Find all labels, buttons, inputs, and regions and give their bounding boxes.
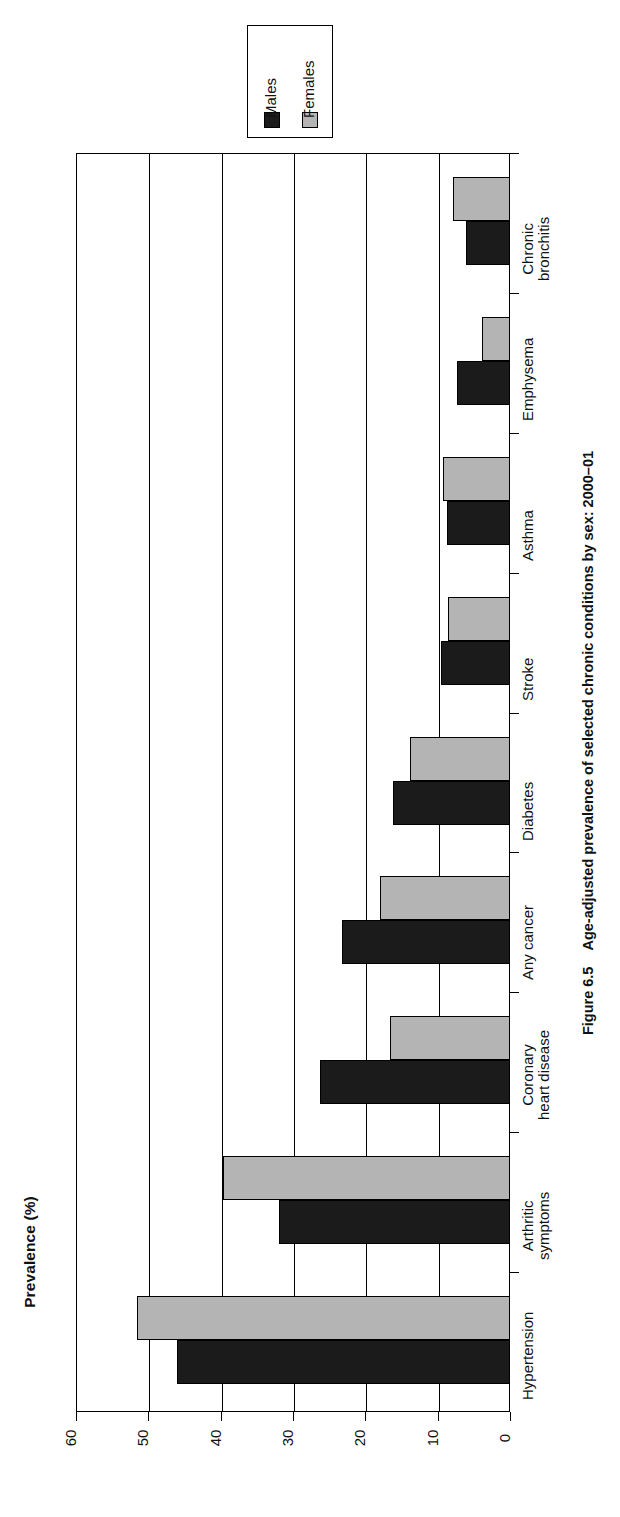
category-tick-6 bbox=[510, 433, 519, 434]
bar-females-chronic-bronchitis bbox=[453, 177, 510, 221]
category-tick-7 bbox=[510, 293, 519, 294]
category-tick-4 bbox=[510, 713, 519, 714]
chart-legend: MalesFemales bbox=[247, 25, 333, 138]
category-label-line1: Any cancer bbox=[519, 905, 536, 980]
bar-females-diabetes bbox=[410, 737, 510, 781]
bar-males-diabetes bbox=[393, 781, 510, 825]
category-label-arthritic-symptoms: Arthriticsymptoms bbox=[520, 1192, 552, 1260]
category-label-line1: Chronic bbox=[519, 223, 536, 275]
category-label-stroke: Stroke bbox=[520, 657, 536, 700]
bar-females-stroke bbox=[448, 597, 510, 641]
figure-caption-text: Age-adjusted prevalence of selected chro… bbox=[580, 451, 596, 951]
bar-males-arthritic-symptoms bbox=[279, 1200, 510, 1244]
category-label-line2: heart disease bbox=[536, 1030, 552, 1120]
category-label-line1: Emphysema bbox=[519, 337, 536, 420]
gridline-50 bbox=[149, 154, 150, 1411]
axis-title-prevalence: Prevalence (%) bbox=[21, 1172, 39, 1332]
bar-females-arthritic-symptoms bbox=[223, 1156, 510, 1200]
category-label-line1: Hypertension bbox=[519, 1312, 536, 1400]
category-tick-5 bbox=[510, 573, 519, 574]
category-label-diabetes: Diabetes bbox=[520, 781, 536, 840]
bar-males-hypertension bbox=[177, 1340, 510, 1384]
category-tick-0 bbox=[510, 1272, 519, 1273]
category-label-hypertension: Hypertension bbox=[520, 1312, 536, 1400]
category-tick-8 bbox=[510, 153, 519, 154]
category-tick-1 bbox=[510, 1132, 519, 1133]
bar-males-stroke bbox=[441, 641, 510, 685]
category-label-any-cancer: Any cancer bbox=[520, 905, 536, 980]
figure-caption: Figure 6.5Age-adjusted prevalence of sel… bbox=[580, 393, 596, 1093]
bar-females-coronary-heart-disease bbox=[390, 1016, 510, 1060]
category-tick-3 bbox=[510, 852, 519, 853]
figure-number: Figure 6.5 bbox=[580, 967, 596, 1036]
bar-males-emphysema bbox=[457, 361, 510, 405]
category-tick-2 bbox=[510, 992, 519, 993]
category-label-line1: Stroke bbox=[519, 657, 536, 700]
category-label-chronic-bronchitis: Chronicbronchitis bbox=[520, 217, 552, 281]
axis-tick-label-40: 40 bbox=[207, 1418, 224, 1458]
axis-tick-label-20: 20 bbox=[351, 1418, 368, 1458]
bar-males-any-cancer bbox=[342, 920, 510, 964]
category-label-line1: Diabetes bbox=[519, 781, 536, 840]
bar-males-chronic-bronchitis bbox=[466, 221, 510, 265]
category-label-line2: symptoms bbox=[536, 1192, 552, 1260]
category-label-line1: Coronary bbox=[519, 1044, 536, 1106]
bar-males-coronary-heart-disease bbox=[320, 1060, 510, 1104]
figure-container: Prevalence (%) MalesFemales Figure 6.5Ag… bbox=[0, 0, 620, 1517]
category-label-line1: Arthritic bbox=[519, 1201, 536, 1252]
axis-tick-label-10: 10 bbox=[424, 1418, 441, 1458]
axis-tick-label-60: 60 bbox=[62, 1418, 79, 1458]
axis-tick-label-50: 50 bbox=[134, 1418, 151, 1458]
bar-females-asthma bbox=[443, 457, 510, 501]
axis-tick-label-30: 30 bbox=[279, 1418, 296, 1458]
category-label-line2: bronchitis bbox=[536, 217, 552, 281]
category-label-coronary-heart-disease: Coronaryheart disease bbox=[520, 1030, 552, 1120]
category-label-emphysema: Emphysema bbox=[520, 337, 536, 420]
axis-tick-label-0: 0 bbox=[496, 1418, 513, 1458]
bar-females-emphysema bbox=[482, 317, 510, 361]
gridline-40 bbox=[222, 154, 223, 1411]
legend-label-females: Females bbox=[300, 60, 317, 118]
bar-males-asthma bbox=[447, 501, 510, 545]
bar-females-any-cancer bbox=[380, 876, 510, 920]
bar-females-hypertension bbox=[137, 1296, 510, 1340]
category-label-asthma: Asthma bbox=[520, 510, 536, 561]
category-label-line1: Asthma bbox=[519, 510, 536, 561]
legend-label-males: Males bbox=[262, 78, 279, 118]
